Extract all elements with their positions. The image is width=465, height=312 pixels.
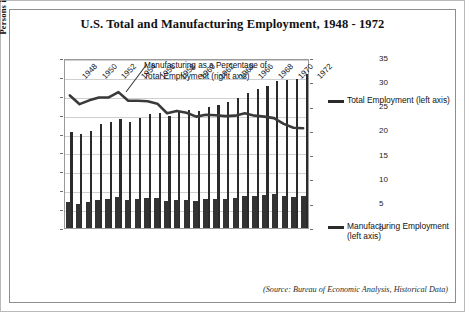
plot-wrapper: 0100002000030000400005000060000700008000…	[64, 59, 309, 229]
y-axis-right-tickmark	[310, 132, 313, 133]
y-axis-title: Persons in Thousands	[0, 0, 8, 53]
y-axis-right-tickmark	[310, 156, 313, 157]
y-axis-right-tickmark	[310, 83, 313, 84]
legend-total-employment: Total Employment (left axis)	[347, 95, 459, 105]
source-note: (Source: Bureau of Economic Analysis, Hi…	[263, 285, 448, 294]
legend-manufacturing-label: Manufacturing Employment (left axis)	[347, 221, 449, 241]
y-axis-right-tickmark	[310, 229, 313, 230]
figure-container: U.S. Total and Manufacturing Employment,…	[0, 0, 465, 312]
chart-annotation: Manufacturing as a Percentage of Total E…	[144, 61, 276, 82]
legend-line-swatch-total	[328, 100, 344, 103]
chart-title: U.S. Total and Manufacturing Employment,…	[1, 17, 464, 32]
y-axis-left-tickmark	[60, 78, 63, 79]
legend-total-label: Total Employment (left axis)	[347, 95, 450, 105]
y-axis-left-tickmark	[60, 116, 63, 117]
y-axis-left-tickmark	[60, 59, 63, 60]
plot-area	[64, 59, 309, 229]
y-axis-left-tickmark	[60, 210, 63, 211]
y-axis-right-tick-label: 10	[379, 175, 403, 184]
y-axis-right-tickmark	[310, 108, 313, 109]
y-axis-right-tickmark	[310, 59, 313, 60]
y-axis-right-tickmark	[310, 180, 313, 181]
y-axis-left-tickmark	[60, 135, 63, 136]
y-axis-right-tickmark	[310, 205, 313, 206]
y-axis-left-tickmark	[60, 229, 63, 230]
legend-manufacturing-employment: Manufacturing Employment (left axis)	[347, 221, 459, 242]
y-axis-left-tickmark	[60, 153, 63, 154]
manufacturing-percentage-line	[65, 60, 308, 228]
y-axis-right-tick-label: 5	[379, 199, 403, 208]
legend-line-swatch-manufacturing	[328, 226, 344, 229]
y-axis-right-tick-label: 15	[379, 151, 403, 160]
y-axis-right-tick-label: 30	[379, 78, 403, 87]
y-axis-left-tickmark	[60, 172, 63, 173]
y-axis-left-tickmark	[60, 97, 63, 98]
y-axis-right-tick-label: 35	[379, 54, 403, 63]
y-axis-right-tick-label: 20	[379, 126, 403, 135]
y-axis-left-tickmark	[60, 191, 63, 192]
